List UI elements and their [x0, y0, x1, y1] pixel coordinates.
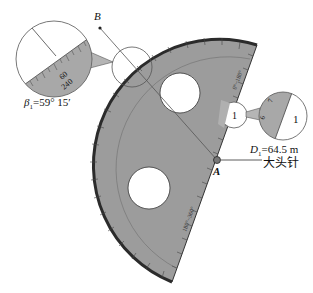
small-edge-circle-label: 1: [232, 110, 237, 121]
distance-symbol: D: [250, 143, 258, 155]
protractor-diagram: 0°~180° 180°~360°: [0, 0, 313, 293]
pin-a: [214, 157, 221, 164]
right-magnifier: 1 7 6: [255, 90, 307, 142]
small-edge-circle: 1: [218, 100, 247, 128]
lower-hole: [128, 167, 170, 209]
beta-label: β1=59° 15′: [24, 96, 71, 111]
upper-hole: [160, 73, 200, 113]
point-b-label: B: [94, 10, 101, 22]
beta-value: =59° 15′: [33, 96, 71, 108]
point-b: [98, 26, 101, 29]
right-mag-label: 1: [293, 113, 299, 125]
distance-label: D1=64.5 m: [250, 143, 298, 158]
point-a-label: A: [213, 165, 220, 177]
distance-value: =64.5 m: [261, 143, 298, 155]
pointer-left: [90, 52, 113, 68]
